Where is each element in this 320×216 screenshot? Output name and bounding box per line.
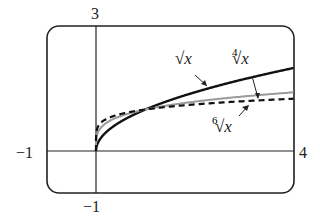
root6-arrow-head [242,105,249,111]
sqrt-label: √x [175,50,192,67]
x-left-label: −1 [16,145,33,161]
curve-sqrt [96,68,294,151]
curve-root6 [96,99,294,151]
root4-radical: √x [232,50,249,67]
y-bottom-label: −1 [83,199,100,215]
x-right-label: 4 [299,145,307,161]
chart-canvas [0,0,320,216]
root6-radical: √x [215,118,232,135]
y-top-label: 3 [91,6,99,22]
plot-frame [47,26,294,193]
